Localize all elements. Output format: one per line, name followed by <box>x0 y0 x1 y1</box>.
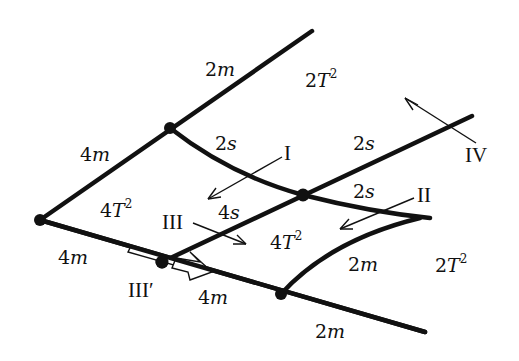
region-left: 4T2 <box>100 200 132 220</box>
label-curve-tip-d: 2m <box>348 255 378 274</box>
label-arrow-III: III <box>162 212 183 233</box>
label-arrow-II: II <box>417 185 431 206</box>
label-line-b-upper: 2s <box>353 134 375 153</box>
edge-upper-left <box>40 31 312 220</box>
label-upper-left-bottom: 4m <box>80 145 110 164</box>
label-curve-ab: 2s <box>215 134 237 153</box>
edge-curve-a-tip <box>170 128 430 218</box>
label-lower-left: 4m <box>58 248 88 267</box>
label-curve-b-tip: 2s <box>353 182 375 201</box>
label-arrow-III-prime: III′ <box>128 280 154 301</box>
label-lower-right: 2m <box>315 322 345 341</box>
region-center: 4T2 <box>270 232 302 252</box>
label-lower-cd: 4m <box>198 288 228 307</box>
label-line-cb: 4s <box>218 203 240 222</box>
arrow-IV-head <box>405 98 418 110</box>
label-upper-left-top: 2m <box>205 60 235 79</box>
node-b <box>297 189 310 202</box>
region-top: 2T2 <box>305 70 337 90</box>
label-arrow-IV: IV <box>465 145 487 166</box>
region-right: 2T2 <box>435 255 467 275</box>
label-arrow-I: I <box>284 143 291 164</box>
diagram-lines <box>0 0 519 361</box>
node-a <box>164 122 176 134</box>
node-c-overlay <box>156 256 169 269</box>
diagram: 2m 4m 2s 2s 2s 4s 4m 4m 2m 2m 2T2 4T2 4T… <box>0 0 519 361</box>
